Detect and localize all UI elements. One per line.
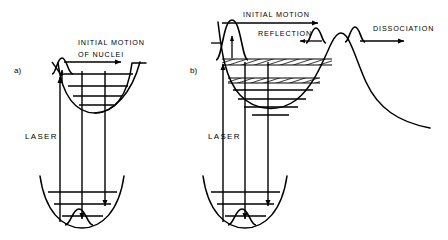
panel-b-reflection-label: REFLECTION (258, 29, 312, 38)
panel-a-laser-label: LASER (25, 132, 58, 141)
panel-b-marker: b) (190, 66, 197, 75)
panel-b-dissociation-label: DISSOCIATION (373, 24, 434, 33)
panel-b-quasi-continuum-band-upper (222, 59, 332, 65)
panel-a-initial-motion-label-line1: INITIAL MOTION (78, 38, 145, 47)
panel-b-initial-motion-label: INITIAL MOTION (243, 10, 310, 19)
panel-a-marker: a) (14, 66, 21, 75)
figure-canvas: a) INITIAL MOTION OF NUCLEI LASER (0, 0, 448, 240)
panel-b-quasi-continuum-band-lower (228, 78, 320, 83)
panel-b-laser-label: LASER (208, 132, 241, 141)
diagram-svg: a) INITIAL MOTION OF NUCLEI LASER (0, 0, 448, 240)
panel-a-initial-motion-label-line2: OF NUCLEI (78, 50, 124, 59)
